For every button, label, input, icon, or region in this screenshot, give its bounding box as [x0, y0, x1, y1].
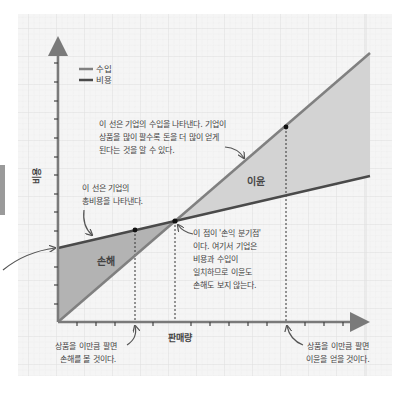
svg-text:상품을 많이 팔수록 돈을 더 많이 얻게: 상품을 많이 팔수록 돈을 더 많이 얻게 — [99, 132, 219, 142]
profit-label: 이윤 — [247, 175, 265, 187]
page-side-tab — [0, 165, 5, 215]
svg-text:이 선은 기업의: 이 선은 기업의 — [82, 183, 129, 193]
chart-canvas: 수입 비용 비용 판매량 손해 이윤 이 선은 기업의 수입을 나타낸다. 기업… — [0, 0, 403, 395]
break-even-chart: 수입 비용 비용 판매량 손해 이윤 이 선은 기업의 수입을 나타낸다. 기업… — [0, 0, 403, 395]
svg-text:상품을 이만큼 팔면: 상품을 이만큼 팔면 — [307, 341, 368, 351]
svg-text:이윤을 얻을 것이다.: 이윤을 얻을 것이다. — [306, 354, 370, 364]
svg-text:이 선은 기업의 수입을 나타낸다. 기업이: 이 선은 기업의 수입을 나타낸다. 기업이 — [99, 119, 226, 129]
svg-text:비용과 수입이: 비용과 수입이 — [193, 254, 238, 264]
svg-text:손해를 볼 것이다.: 손해를 볼 것이다. — [60, 354, 117, 364]
svg-text:이다. 여기서 기업은: 이다. 여기서 기업은 — [193, 241, 257, 251]
svg-text:일치하므로 이윤도: 일치하므로 이윤도 — [193, 267, 252, 277]
svg-text:된다는 것을 알 수 있다.: 된다는 것을 알 수 있다. — [99, 145, 175, 155]
revenue-point — [284, 125, 289, 130]
break-even-point — [172, 218, 177, 223]
svg-text:상품을 이만큼 팔면: 상품을 이만큼 팔면 — [55, 341, 116, 351]
svg-text:이 점이 '손익 분기점': 이 점이 '손익 분기점' — [193, 228, 261, 238]
y-axis-label: 비용 — [31, 168, 42, 184]
svg-text:손해도 보지 않는다.: 손해도 보지 않는다. — [193, 280, 257, 290]
legend-revenue-label: 수입 — [96, 64, 112, 74]
x-axis-label: 판매량 — [168, 332, 193, 343]
loss-label: 손해 — [97, 255, 115, 267]
cost-point — [133, 228, 138, 233]
svg-text:총비용을 나타낸다.: 총비용을 나타낸다. — [82, 197, 143, 206]
legend-cost-label: 비용 — [96, 75, 112, 85]
